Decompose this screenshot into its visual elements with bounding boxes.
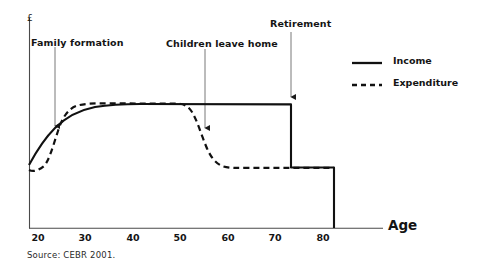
legend-swatch-dashed-line-icon <box>351 80 383 90</box>
x-axis-name-label: Age <box>388 219 417 233</box>
axes-group <box>29 18 383 229</box>
legend-label-income: Income <box>393 56 432 66</box>
legend-label-expenditure: Expenditure <box>393 78 458 88</box>
x-tick-label-70: 70 <box>263 233 287 243</box>
y-axis-currency-label: £ <box>27 14 33 23</box>
x-tick-label-30: 30 <box>73 233 97 243</box>
x-tick-label-80: 80 <box>311 233 335 243</box>
x-tick-label-20: 20 <box>26 233 50 243</box>
annotation-label-family-formation: Family formation <box>31 38 124 48</box>
annotation-label-retirement: Retirement <box>270 19 331 29</box>
x-tick-label-40: 40 <box>121 233 145 243</box>
source-note: Source: CEBR 2001. <box>27 251 115 260</box>
lifecycle-chart-figure: £ Family formation Children leave home R… <box>0 0 478 266</box>
annotation-label-children-leave-home: Children leave home <box>166 39 278 49</box>
x-tick-label-60: 60 <box>216 233 240 243</box>
income-series-line <box>29 104 334 228</box>
legend-swatch-solid-line-icon <box>351 58 383 68</box>
x-tick-label-50: 50 <box>168 233 192 243</box>
